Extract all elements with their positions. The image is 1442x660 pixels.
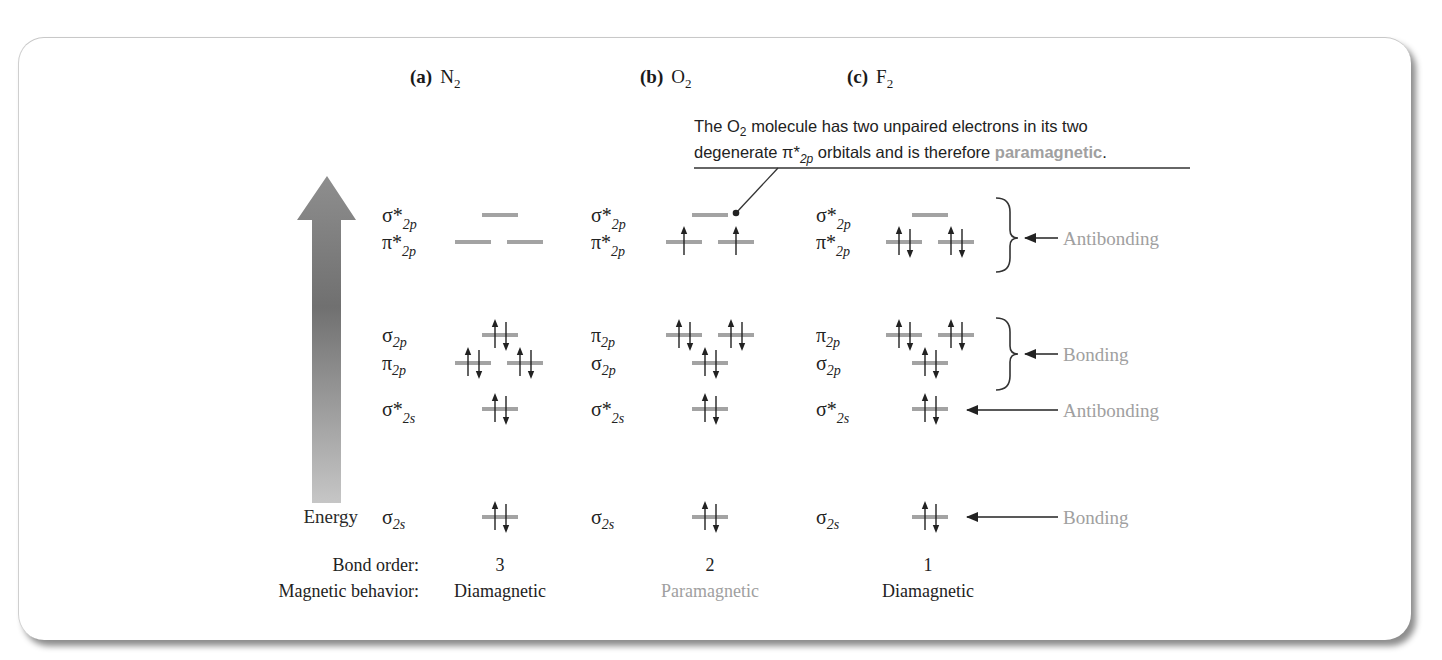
bond-order-value: 2 xyxy=(706,555,715,575)
orbital-label: σ2p xyxy=(816,352,841,378)
energy-arrow-icon xyxy=(297,176,356,503)
orbital-label: σ2p xyxy=(382,324,407,350)
orbital-label: π*2p xyxy=(591,231,625,259)
bond-order-label: Bond order: xyxy=(333,555,419,575)
orbital-label: π2p xyxy=(816,324,840,350)
orbital-label: σ2s xyxy=(591,506,615,532)
orbital-level xyxy=(912,501,948,533)
orbital-level xyxy=(666,319,702,351)
header-n2: (a)N2 xyxy=(410,66,460,91)
callout-dot-icon xyxy=(733,210,740,217)
orbital-label: σ2s xyxy=(816,506,840,532)
magnetic-behavior-value: Diamagnetic xyxy=(454,581,546,601)
svg-text:Bonding: Bonding xyxy=(1063,507,1129,528)
orbital-level xyxy=(482,319,518,351)
orbital-level xyxy=(718,319,754,351)
brace-icon xyxy=(996,198,1018,272)
svg-text:Antibonding: Antibonding xyxy=(1063,228,1160,249)
orbital-label: π2p xyxy=(382,352,406,378)
orbital-label: σ*2s xyxy=(816,398,850,426)
orbital-level xyxy=(886,319,922,351)
orbital-label: σ*2p xyxy=(591,204,626,232)
column-n2: σ*2pπ*2pσ2pπ2pσ*2sσ2s xyxy=(382,204,543,533)
o2-callout: The O2 molecule has two unpaired electro… xyxy=(694,117,1190,216)
annotation-antibonding-arrow: Antibonding xyxy=(967,400,1160,421)
orbital-level xyxy=(692,347,728,379)
orbital-level xyxy=(482,393,518,425)
header-f2: (c)F2 xyxy=(847,66,893,91)
orbital-label: π2p xyxy=(591,324,615,350)
orbital-level xyxy=(692,501,728,533)
magnetic-behavior-value: Paramagnetic xyxy=(661,581,759,601)
column-o2: σ*2pπ*2pπ2pσ2pσ*2sσ2s xyxy=(591,204,754,533)
orbital-level xyxy=(912,347,948,379)
orbital-label: σ2s xyxy=(382,506,406,532)
orbital-level xyxy=(886,226,922,258)
callout-leader-line xyxy=(736,168,778,213)
orbital-level xyxy=(938,319,974,351)
annotation-antibonding-brace: Antibonding xyxy=(996,198,1160,272)
energy-label: Energy xyxy=(303,506,358,527)
orbital-label: π*2p xyxy=(816,231,850,259)
orbital-label: σ*2s xyxy=(382,398,416,426)
orbital-label: π*2p xyxy=(382,231,416,259)
svg-text:Antibonding: Antibonding xyxy=(1063,400,1160,421)
orbital-level xyxy=(666,226,702,255)
orbital-level xyxy=(455,347,491,379)
orbital-label: σ2p xyxy=(591,352,616,378)
annotation-bonding-arrow: Bonding xyxy=(967,507,1129,528)
magnetic-behavior-value: Diamagnetic xyxy=(882,581,974,601)
orbital-level xyxy=(507,347,543,379)
orbital-label: σ*2s xyxy=(591,398,625,426)
orbital-level xyxy=(912,393,948,425)
orbital-level xyxy=(718,226,754,255)
orbital-label: σ*2p xyxy=(816,204,851,232)
bond-order-value: 3 xyxy=(496,555,505,575)
orbital-level xyxy=(692,393,728,425)
callout-line-1: The O2 molecule has two unpaired electro… xyxy=(694,117,1088,139)
callout-line-2: degenerate π*2p orbitals and is therefor… xyxy=(694,143,1107,166)
orbital-label: σ*2p xyxy=(382,204,417,232)
svg-text:Bonding: Bonding xyxy=(1063,344,1129,365)
orbital-level xyxy=(938,226,974,258)
brace-icon xyxy=(996,318,1018,390)
annotation-bonding-brace: Bonding xyxy=(996,318,1129,390)
magnetic-behavior-label: Magnetic behavior: xyxy=(279,581,419,601)
bond-order-value: 1 xyxy=(924,555,933,575)
column-f2: σ*2pπ*2pπ2pσ2pσ*2sσ2s xyxy=(816,204,974,533)
mo-diagram: (a)N2(b)O2(c)F2 The O2 molecule has two … xyxy=(0,0,1442,660)
header-o2: (b)O2 xyxy=(640,66,691,91)
orbital-level xyxy=(482,501,518,533)
